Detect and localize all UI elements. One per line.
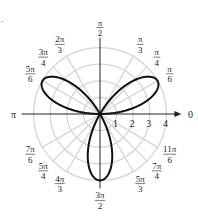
svg-text:4: 4 bbox=[155, 171, 160, 181]
angle-label: 3π4 bbox=[38, 47, 48, 68]
svg-text:11π: 11π bbox=[163, 144, 177, 154]
radial-tick-label: 2 bbox=[130, 118, 135, 129]
radial-tick-label: 3 bbox=[146, 118, 151, 129]
svg-text:2π: 2π bbox=[55, 34, 65, 44]
angle-label: 5π4 bbox=[38, 161, 48, 182]
angle-label: π3 bbox=[137, 34, 144, 55]
svg-text:2: 2 bbox=[98, 28, 103, 38]
svg-text:5π: 5π bbox=[26, 64, 36, 74]
svg-text:π: π bbox=[155, 47, 160, 57]
svg-text:5π: 5π bbox=[39, 161, 49, 171]
svg-text:5π: 5π bbox=[136, 174, 146, 184]
radial-tick-label: 4 bbox=[163, 118, 168, 129]
angle-label: 11π6 bbox=[163, 144, 177, 165]
svg-text:π: π bbox=[11, 109, 16, 120]
svg-text:π: π bbox=[138, 34, 143, 44]
angle-label: 4π3 bbox=[55, 174, 65, 195]
angle-label: 3π2 bbox=[95, 190, 105, 211]
angle-label: 5π6 bbox=[25, 64, 35, 85]
angle-label: 2π3 bbox=[55, 34, 65, 55]
svg-text:7π: 7π bbox=[152, 161, 162, 171]
angle-label: 5π3 bbox=[135, 174, 145, 195]
angle-label: π6 bbox=[166, 64, 173, 85]
angle-label: 7π4 bbox=[152, 161, 162, 182]
svg-text:7π: 7π bbox=[26, 144, 36, 154]
svg-text:3: 3 bbox=[58, 184, 63, 194]
svg-text:3: 3 bbox=[138, 184, 143, 194]
svg-text:3π: 3π bbox=[95, 190, 105, 200]
svg-text:6: 6 bbox=[28, 155, 33, 165]
svg-text:6: 6 bbox=[28, 74, 33, 84]
svg-text:π: π bbox=[167, 64, 172, 74]
angle-label: 0 bbox=[188, 109, 193, 120]
polar-graph: . 0π6π4π3π22π33π45π6π7π65π44π33π25π37π41… bbox=[0, 0, 198, 219]
svg-text:4: 4 bbox=[41, 58, 46, 68]
svg-text:6: 6 bbox=[167, 74, 172, 84]
angle-label: π bbox=[11, 109, 16, 120]
angle-label: 7π6 bbox=[25, 144, 35, 165]
radial-tick-labels: 1234 bbox=[113, 118, 168, 129]
svg-text:3: 3 bbox=[58, 45, 63, 55]
svg-text:π: π bbox=[98, 18, 103, 28]
svg-text:3: 3 bbox=[138, 45, 143, 55]
svg-text:2: 2 bbox=[98, 201, 103, 211]
radial-tick-label: 1 bbox=[113, 118, 118, 129]
svg-text:3π: 3π bbox=[39, 47, 49, 57]
problem-marker: . bbox=[1, 14, 3, 24]
angle-label: π2 bbox=[97, 18, 104, 38]
svg-text:4π: 4π bbox=[55, 174, 65, 184]
svg-text:4: 4 bbox=[155, 58, 160, 68]
svg-text:0: 0 bbox=[188, 109, 193, 120]
svg-text:4: 4 bbox=[41, 171, 46, 181]
svg-text:6: 6 bbox=[167, 155, 172, 165]
arrow-icon bbox=[174, 111, 181, 117]
angle-label: π4 bbox=[153, 47, 160, 68]
